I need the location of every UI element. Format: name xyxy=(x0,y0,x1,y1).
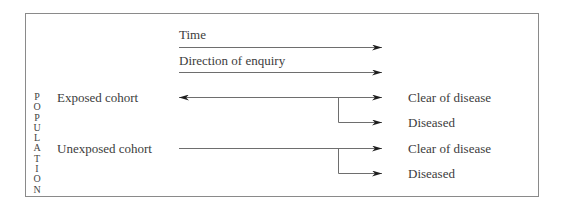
arrows-layer xyxy=(0,0,561,209)
exposed-branch xyxy=(339,98,383,123)
unexposed-branch xyxy=(339,149,383,174)
